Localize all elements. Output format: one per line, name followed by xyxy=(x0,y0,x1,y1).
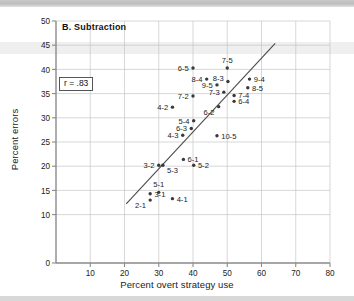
grid-lines xyxy=(56,21,330,263)
regression-line xyxy=(126,43,275,204)
y-axis-title: Percent errors xyxy=(9,75,20,205)
data-point xyxy=(192,119,195,122)
data-point-label: 2-1 xyxy=(135,201,146,210)
data-point xyxy=(215,83,218,86)
data-point-label: 3-1 xyxy=(154,190,165,199)
data-point-label: 5-2 xyxy=(198,161,209,170)
panel-title: B. Subtraction xyxy=(62,22,126,32)
data-point xyxy=(190,127,193,130)
data-point xyxy=(248,77,251,80)
y-tick-label: 30 xyxy=(41,114,51,123)
trend-line xyxy=(126,43,275,204)
tick-marks xyxy=(52,21,330,267)
x-tick-label: 30 xyxy=(154,269,164,278)
data-point xyxy=(171,197,174,200)
data-point xyxy=(157,164,160,167)
data-point-label: 3-2 xyxy=(144,161,155,170)
data-point xyxy=(226,80,229,83)
data-point-label: 4-3 xyxy=(168,131,179,140)
x-tick-label: 80 xyxy=(325,269,335,278)
data-point-labels: 6-57-58-48-39-49-58-57-37-27-44-26-46-25… xyxy=(135,56,265,211)
y-tick-label: 25 xyxy=(41,138,51,147)
data-point-label: 4-1 xyxy=(177,195,188,204)
data-point xyxy=(232,100,235,103)
data-point-label: 7-3 xyxy=(209,88,220,97)
y-tick-label: 20 xyxy=(41,162,51,171)
data-point xyxy=(191,66,194,69)
y-tick-label: 15 xyxy=(41,187,51,196)
data-point-label: 6-2 xyxy=(204,108,215,117)
x-tick-label: 50 xyxy=(223,269,233,278)
data-point xyxy=(182,158,185,161)
y-tick-label: 10 xyxy=(41,211,51,220)
y-tick-label: 40 xyxy=(41,66,51,75)
data-point-label: 10-5 xyxy=(221,132,236,141)
data-point xyxy=(232,94,235,97)
data-point xyxy=(148,198,151,201)
y-tick-label: 35 xyxy=(41,90,51,99)
data-point-label: 8-3 xyxy=(213,74,224,83)
data-point-label: 7-5 xyxy=(222,56,233,65)
x-tick-label: 70 xyxy=(291,269,301,278)
x-tick-label: 40 xyxy=(188,269,198,278)
data-point xyxy=(171,105,174,108)
x-axis-title: Percent overt strategy use xyxy=(0,279,354,290)
x-tick-label: 60 xyxy=(257,269,267,278)
data-point-label: 5-1 xyxy=(153,180,164,189)
data-point-label: 5-3 xyxy=(167,166,178,175)
scatter-plot: 01520253035404550101020304050607080 6-57… xyxy=(0,0,354,301)
data-point xyxy=(161,164,164,167)
data-point xyxy=(148,192,151,195)
figure-panel: 01520253035404550101020304050607080 6-57… xyxy=(0,0,354,301)
data-point-label: 6-5 xyxy=(178,64,189,73)
data-point xyxy=(226,66,229,69)
tick-labels: 01520253035404550101020304050607080 xyxy=(41,17,335,278)
y-tick-label: 45 xyxy=(41,41,51,50)
data-point xyxy=(217,105,220,108)
data-point-label: 8-5 xyxy=(252,84,263,93)
x-tick-label: 10 xyxy=(86,269,96,278)
data-point-label: 7-2 xyxy=(178,92,189,101)
data-point xyxy=(215,134,218,137)
y-tick-label: 0 xyxy=(45,259,50,268)
data-point-label: 9-4 xyxy=(254,75,265,84)
data-point-label: 4-2 xyxy=(157,103,168,112)
y-tick-label: 50 xyxy=(41,17,51,26)
data-point-label: 6-4 xyxy=(238,97,249,106)
data-point xyxy=(191,94,194,97)
data-point xyxy=(181,134,184,137)
x-tick-label: 20 xyxy=(120,269,130,278)
data-point xyxy=(222,90,225,93)
correlation-annotation: r = .83 xyxy=(59,77,93,91)
data-point xyxy=(246,86,249,89)
